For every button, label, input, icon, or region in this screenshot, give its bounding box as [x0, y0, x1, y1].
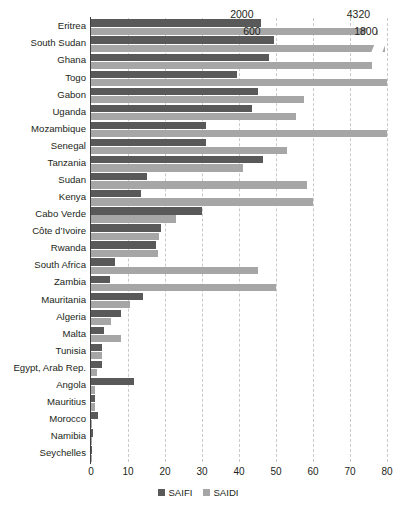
x-tick-label: 70 [344, 466, 355, 477]
category-label: Togo [0, 73, 86, 83]
legend-swatch-icon [158, 489, 165, 496]
x-tick-label: 60 [307, 466, 318, 477]
category-label: Zambia [0, 277, 86, 287]
legend-item-saidi[interactable]: SAIDI [203, 487, 238, 498]
category-label: Cabo Verde [0, 209, 86, 219]
category-label: Senegal [0, 141, 86, 151]
category-label: Malta [0, 329, 86, 339]
legend-swatch-icon [203, 489, 210, 496]
x-tick-label: 40 [233, 466, 244, 477]
chart-annotations: 200043206001800 [91, 18, 387, 462]
x-tick-label: 80 [381, 466, 392, 477]
category-label: Ghana [0, 55, 86, 65]
legend-item-saifi[interactable]: SAIFI [158, 487, 192, 498]
category-label: Gabon [0, 90, 86, 100]
category-label: Uganda [0, 107, 86, 117]
x-tick-label: 30 [196, 466, 207, 477]
x-tick-label: 10 [122, 466, 133, 477]
category-axis-labels: EritreaSouth SudanGhanaTogoGabonUgandaMo… [0, 18, 86, 462]
category-label: Egypt, Arab Rep. [0, 363, 86, 373]
x-tick-label: 0 [88, 466, 94, 477]
x-axis: 01020304050607080 [91, 462, 387, 482]
category-label: Tunisia [0, 346, 86, 356]
category-label: Mauritius [0, 397, 86, 407]
chart-legend: SAIFISAIDI [0, 487, 397, 498]
category-label: Mauritania [0, 295, 86, 305]
value-label: 2000 [230, 8, 253, 20]
category-label: Kenya [0, 192, 86, 202]
legend-label: SAIFI [168, 487, 192, 498]
category-label: Morocco [0, 414, 86, 424]
value-label: 600 [243, 25, 261, 37]
category-label: Tanzania [0, 158, 86, 168]
category-label: South Africa [0, 260, 86, 270]
x-tick-label: 20 [159, 466, 170, 477]
category-label: Angola [0, 380, 86, 390]
value-label: 1800 [354, 25, 377, 37]
category-label: Namibia [0, 431, 86, 441]
bar-chart: EritreaSouth SudanGhanaTogoGabonUgandaMo… [0, 0, 397, 518]
legend-label: SAIDI [213, 487, 238, 498]
x-tick-label: 50 [270, 466, 281, 477]
category-label: Seychelles [0, 448, 86, 458]
category-label: Eritrea [0, 21, 86, 31]
category-label: Algeria [0, 312, 86, 322]
category-label: Mozambique [0, 124, 86, 134]
category-label: South Sudan [0, 38, 86, 48]
value-label: 4320 [347, 8, 370, 20]
gridline-80 [387, 18, 389, 462]
category-label: Rwanda [0, 243, 86, 253]
category-label: Sudan [0, 175, 86, 185]
category-label: Côte d’Ivoire [0, 226, 86, 236]
